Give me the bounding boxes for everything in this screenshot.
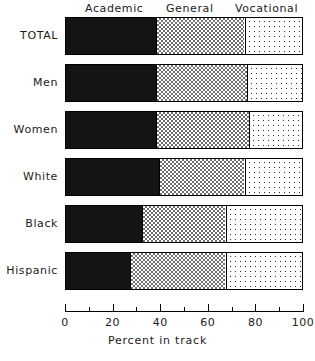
- segment-vocational: [249, 112, 302, 148]
- x-tick-label-80: 80: [235, 316, 275, 329]
- bar-white: [65, 158, 303, 196]
- segment-academic: [66, 159, 159, 195]
- bar-total: [65, 17, 303, 55]
- segment-vocational: [247, 65, 302, 101]
- bar-hispanic: [65, 252, 303, 290]
- bar-men: [65, 64, 303, 102]
- segment-general: [130, 253, 225, 289]
- segment-general: [142, 206, 225, 242]
- x-tick-70: [232, 307, 233, 311]
- x-tick-20: [113, 304, 114, 311]
- segment-academic: [66, 253, 130, 289]
- row-label-black: Black: [0, 217, 58, 230]
- x-tick-60: [208, 304, 209, 311]
- row-label-women: Women: [0, 123, 58, 136]
- x-axis-line: [65, 311, 304, 312]
- legend-item-general: General: [166, 2, 214, 15]
- x-tick-80: [255, 304, 256, 311]
- row-label-total: TOTAL: [0, 29, 58, 42]
- segment-general: [156, 18, 244, 54]
- x-tick-label-100: 100: [283, 316, 315, 329]
- bar-women: [65, 111, 303, 149]
- segment-general: [159, 159, 245, 195]
- segment-academic: [66, 206, 142, 242]
- segment-vocational: [245, 18, 303, 54]
- x-tick-50: [184, 307, 185, 311]
- bar-black: [65, 205, 303, 243]
- x-axis-title: Percent in track: [0, 334, 315, 347]
- x-tick-label-40: 40: [140, 316, 180, 329]
- legend-item-academic: Academic: [85, 2, 144, 15]
- x-tick-100: [303, 304, 304, 311]
- row-label-hispanic: Hispanic: [0, 264, 58, 277]
- row-label-men: Men: [0, 76, 58, 89]
- x-tick-30: [136, 307, 137, 311]
- x-tick-40: [160, 304, 161, 311]
- row-label-white: White: [0, 170, 58, 183]
- segment-academic: [66, 112, 156, 148]
- segment-vocational: [226, 206, 303, 242]
- segment-general: [156, 112, 249, 148]
- segment-vocational: [226, 253, 303, 289]
- x-tick-10: [89, 307, 90, 311]
- x-tick-label-20: 20: [93, 316, 133, 329]
- stacked-bar-chart: Academic General Vocational TOTAL Men Wo…: [0, 0, 315, 361]
- legend-item-vocational: Vocational: [235, 2, 298, 15]
- segment-academic: [66, 65, 156, 101]
- x-tick-label-60: 60: [188, 316, 228, 329]
- x-tick-0: [65, 304, 66, 311]
- x-tick-90: [279, 307, 280, 311]
- x-tick-label-0: 0: [45, 316, 85, 329]
- segment-vocational: [245, 159, 303, 195]
- segment-general: [156, 65, 246, 101]
- segment-academic: [66, 18, 156, 54]
